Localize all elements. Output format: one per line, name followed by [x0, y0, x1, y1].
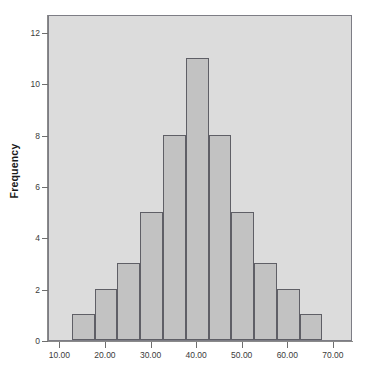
y-axis-tick-label: 4: [0, 233, 40, 243]
plot-area: [48, 15, 352, 341]
y-axis-tick-mark: [42, 136, 48, 137]
x-axis-tick-label: 20.00: [80, 350, 130, 360]
histogram-bar: [140, 212, 163, 340]
histogram-bar: [300, 314, 323, 340]
x-axis-tick-mark: [287, 342, 288, 348]
y-axis-tick-mark: [42, 84, 48, 85]
x-axis-tick-label: 10.00: [34, 350, 84, 360]
histogram-bar: [254, 263, 277, 340]
bars-layer: [49, 16, 351, 340]
y-axis-tick-label: 8: [0, 131, 40, 141]
x-axis-tick-label: 30.00: [126, 350, 176, 360]
histogram-figure: Frequency 024681012 10.0020.0030.0040.00…: [0, 0, 367, 371]
y-axis-tick-label: 0: [0, 336, 40, 346]
x-axis-tick-mark: [333, 342, 334, 348]
y-axis-tick-label: 2: [0, 285, 40, 295]
x-axis-tick-mark: [59, 342, 60, 348]
y-axis-tick-mark: [42, 33, 48, 34]
y-axis-tick-mark: [42, 238, 48, 239]
histogram-bar: [163, 135, 186, 340]
histogram-bar: [277, 289, 300, 340]
x-axis-tick-mark: [151, 342, 152, 348]
x-axis-tick-label: 50.00: [217, 350, 267, 360]
y-axis-tick-label: 12: [0, 28, 40, 38]
histogram-bar: [95, 289, 118, 340]
histogram-bar: [72, 314, 95, 340]
y-axis-tick-mark: [42, 290, 48, 291]
histogram-bar: [231, 212, 254, 340]
x-axis-tick-label: 60.00: [262, 350, 312, 360]
histogram-bar: [209, 135, 232, 340]
x-axis-tick-label: 70.00: [308, 350, 358, 360]
y-axis-tick-label: 6: [0, 182, 40, 192]
x-axis-line: [47, 341, 353, 342]
histogram-bar: [186, 58, 209, 340]
x-axis-tick-mark: [242, 342, 243, 348]
y-axis-tick-mark: [42, 341, 48, 342]
x-axis-tick-label: 40.00: [171, 350, 221, 360]
y-axis-tick-mark: [42, 187, 48, 188]
x-axis-tick-mark: [105, 342, 106, 348]
x-axis-tick-mark: [196, 342, 197, 348]
histogram-bar: [117, 263, 140, 340]
y-axis-tick-label: 10: [0, 79, 40, 89]
